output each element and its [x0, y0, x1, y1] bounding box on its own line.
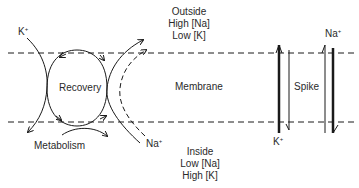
recovery-label: Recovery: [59, 82, 101, 94]
outside-label: Outside High [Na] Low [K]: [160, 6, 218, 42]
inside-label: Inside Low [Na] High [K]: [172, 146, 228, 182]
metabolism-label: Metabolism: [34, 140, 85, 152]
k-ion-label-left: K+: [18, 26, 28, 38]
na-ion-label-spike: Na+: [325, 28, 341, 40]
na-ion-label-left: Na+: [146, 138, 162, 150]
spike-label: Spike: [294, 81, 319, 93]
metabolism-arrow: [62, 128, 107, 136]
k-influx-arrow: [27, 38, 47, 132]
membrane-label: Membrane: [175, 81, 223, 93]
na-efflux-arrow: [107, 40, 143, 143]
na-leak-dashed-arrow: [120, 50, 146, 136]
k-ion-label-spike: K+: [273, 136, 283, 148]
